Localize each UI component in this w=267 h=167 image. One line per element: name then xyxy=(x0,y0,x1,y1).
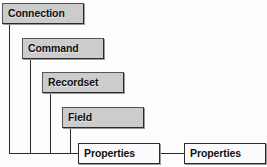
stem-command xyxy=(30,59,31,154)
baseline-rail xyxy=(9,153,79,154)
node-connection-label: Connection xyxy=(3,8,65,19)
node-field-label: Field xyxy=(63,112,92,123)
stem-connection xyxy=(9,24,10,154)
node-properties-right-label: Properties xyxy=(185,148,241,159)
node-command[interactable]: Command xyxy=(22,38,104,59)
node-connection[interactable]: Connection xyxy=(2,3,84,24)
node-properties-left-label: Properties xyxy=(79,148,135,159)
properties-connector xyxy=(160,153,185,154)
stem-recordset xyxy=(50,93,51,154)
node-field[interactable]: Field xyxy=(62,107,144,128)
node-recordset-label: Recordset xyxy=(43,77,98,88)
stem-field xyxy=(70,128,71,154)
object-model-diagram: Connection Command Recordset Field Prope… xyxy=(0,0,267,167)
node-properties-left[interactable]: Properties xyxy=(78,143,160,164)
node-properties-right[interactable]: Properties xyxy=(184,143,266,164)
node-recordset[interactable]: Recordset xyxy=(42,72,124,93)
node-command-label: Command xyxy=(23,43,79,54)
